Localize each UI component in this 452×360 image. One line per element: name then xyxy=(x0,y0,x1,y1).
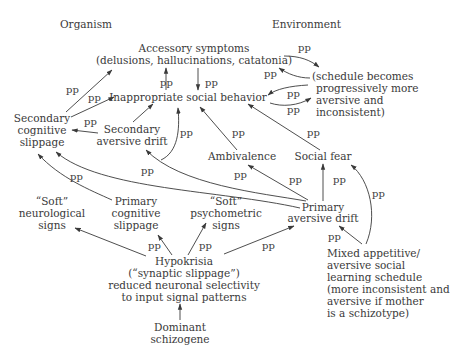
node-secondary-aversive-drift: Secondary aversive drift xyxy=(97,123,169,147)
schizotaxia-causal-diagram: Organism Environment Accessory symptoms … xyxy=(0,0,452,360)
edge-schedule-to-accessory xyxy=(279,68,310,78)
environment-header: Environment xyxy=(272,18,342,30)
svg-text:Secondary: Secondary xyxy=(14,112,70,124)
node-mixed-learning-schedule: Mixed appetitive/ aversive social learni… xyxy=(327,247,450,319)
pp-label: pp xyxy=(148,240,161,251)
pp-label: pp xyxy=(289,174,302,185)
svg-text:signs: signs xyxy=(212,219,240,231)
node-hypokrisia: Hypokrisia (“synaptic slippage”) reduced… xyxy=(108,255,260,303)
svg-text:(schedule becomes: (schedule becomes xyxy=(312,70,413,82)
svg-text:neurological: neurological xyxy=(19,207,86,219)
node-ambivalence: Ambivalence xyxy=(207,150,276,162)
svg-text:aversive if mother: aversive if mother xyxy=(327,295,425,307)
svg-text:Secondary: Secondary xyxy=(104,123,160,135)
node-primary-aversive-drift: Primary aversive drift xyxy=(288,201,360,224)
pp-label: pp xyxy=(180,127,193,138)
svg-text:aversive social: aversive social xyxy=(327,259,406,271)
node-soft-psychometric-signs: “Soft” psychometric signs xyxy=(190,195,262,231)
svg-text:aversive drift: aversive drift xyxy=(288,212,360,224)
svg-text:aversive drift: aversive drift xyxy=(97,135,169,147)
pp-label: pp xyxy=(88,92,101,103)
svg-text:Dominant: Dominant xyxy=(154,321,207,333)
pp-label: pp xyxy=(205,77,218,88)
svg-text:(delusions, hallucinations, ca: (delusions, hallucinations, catatonia) xyxy=(96,54,292,66)
svg-text:(more inconsistent and: (more inconsistent and xyxy=(327,283,450,295)
pp-label: pp xyxy=(234,169,247,180)
pp-label: pp xyxy=(333,174,346,185)
pp-label: pp xyxy=(372,188,385,199)
pp-label: pp xyxy=(141,165,154,176)
svg-text:to input signal patterns: to input signal patterns xyxy=(121,291,246,303)
svg-text:is a schizotype): is a schizotype) xyxy=(327,307,409,319)
node-schedule-becomes-aversive: (schedule becomes progressively more ave… xyxy=(312,70,418,118)
svg-text:Mixed appetitive/: Mixed appetitive/ xyxy=(327,247,421,259)
edge-secav-curve-to-isb xyxy=(161,108,179,160)
svg-text:(“synaptic slippage”): (“synaptic slippage”) xyxy=(128,267,240,279)
svg-text:Inappropriate social behavior: Inappropriate social behavior xyxy=(109,91,268,103)
pp-label: pp xyxy=(328,231,341,242)
edge-secav-to-seccog xyxy=(72,130,98,133)
svg-text:signs: signs xyxy=(38,219,66,231)
svg-text:Hypokrisia: Hypokrisia xyxy=(155,255,213,267)
node-inappropriate-social-behavior: Inappropriate social behavior xyxy=(109,91,268,103)
pp-label: pp xyxy=(264,68,277,79)
svg-text:reduced neuronal selectivity: reduced neuronal selectivity xyxy=(108,279,260,291)
svg-text:aversive and: aversive and xyxy=(316,94,384,106)
svg-text:Ambivalence: Ambivalence xyxy=(207,150,276,162)
edge-hypo-to-softneuro xyxy=(75,228,146,256)
node-social-fear: Social fear xyxy=(294,150,352,162)
pp-label: pp xyxy=(287,104,300,115)
svg-text:“Soft”: “Soft” xyxy=(36,195,68,207)
node-dominant-schizogene: Dominant schizogene xyxy=(150,321,209,345)
pp-label: pp xyxy=(199,240,212,251)
svg-text:learning schedule: learning schedule xyxy=(327,271,422,283)
edge-mixed-to-primav xyxy=(339,226,362,244)
svg-text:inconsistent): inconsistent) xyxy=(316,106,385,118)
node-secondary-cognitive-slippage: Secondary cognitive slippage xyxy=(14,112,70,148)
node-accessory-symptoms: Accessory symptoms (delusions, hallucina… xyxy=(96,42,292,66)
edge-secav-to-isb xyxy=(133,104,153,122)
svg-text:cognitive: cognitive xyxy=(112,207,161,219)
node-soft-neurological-signs: “Soft” neurological signs xyxy=(19,195,86,231)
svg-text:slippage: slippage xyxy=(114,219,159,231)
svg-text:progressively more: progressively more xyxy=(316,82,418,94)
node-primary-cognitive-slippage: Primary cognitive slippage xyxy=(112,195,161,231)
organism-header: Organism xyxy=(60,18,112,30)
pp-label: pp xyxy=(66,84,79,95)
edge-mixed-to-socialfear xyxy=(351,165,372,244)
svg-text:psychometric: psychometric xyxy=(190,207,262,219)
svg-text:schizogene: schizogene xyxy=(150,333,209,345)
svg-text:Accessory symptoms: Accessory symptoms xyxy=(138,42,250,54)
svg-text:“Soft”: “Soft” xyxy=(210,195,242,207)
pp-label: pp xyxy=(84,116,97,127)
svg-text:cognitive: cognitive xyxy=(18,124,67,136)
pp-label: pp xyxy=(232,127,245,138)
svg-text:Primary: Primary xyxy=(115,195,158,207)
pp-label: pp xyxy=(298,42,311,53)
svg-text:slippage: slippage xyxy=(20,136,65,148)
pp-label: pp xyxy=(70,171,83,182)
pp-label: pp xyxy=(307,127,320,138)
pp-label: pp xyxy=(160,77,173,88)
pp-label: pp xyxy=(287,88,300,99)
pp-label: pp xyxy=(262,240,275,251)
svg-text:Social fear: Social fear xyxy=(294,150,352,162)
